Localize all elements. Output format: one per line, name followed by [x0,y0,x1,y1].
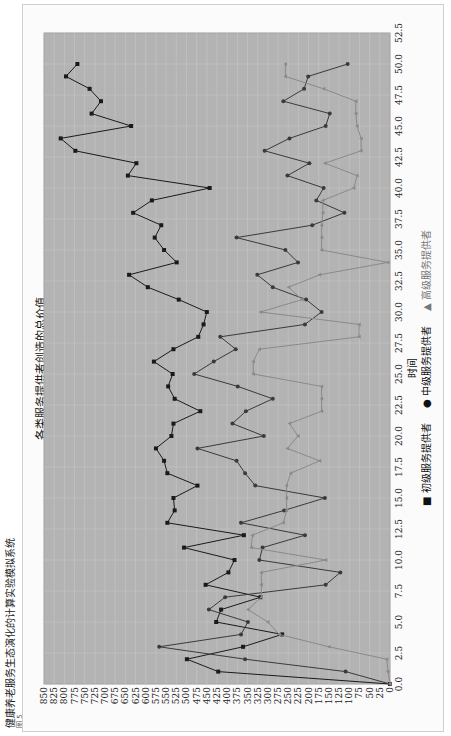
y-tick-label: 250 [283,687,293,704]
triangle-marker-icon: ▲ [421,303,432,311]
circle-marker-icon [262,434,266,438]
y-tick-label: 500 [181,687,191,704]
x-tick-label: 35.0 [394,240,404,260]
square-marker-icon [171,422,175,426]
y-tick-label: 375 [232,687,242,704]
square-marker-icon [173,397,177,401]
circle-marker-icon [281,99,285,103]
x-tick-label: 40.0 [394,178,404,198]
x-tick-label: 32.5 [394,271,404,291]
legend: ■ 初级服务提供者 ● 中级服务提供者 ▲ 高级服务提供者 [418,0,433,736]
y-tick-label: 550 [161,687,171,704]
x-tick-label: 37.5 [394,209,404,229]
y-tick-label: 0 [385,687,395,693]
x-tick-label: 52.5 [394,23,404,43]
x-tick-label: 42.5 [394,147,404,167]
circle-marker-icon [283,248,287,252]
y-tick-label: 25 [375,687,385,699]
y-tick-label: 800 [59,687,69,704]
square-marker-icon [202,322,206,326]
square-marker-icon [152,360,156,364]
circle-marker-icon [236,384,240,388]
x-tick-label: 50.0 [394,54,404,74]
circle-marker-icon [323,496,327,500]
x-tick-label: 47.5 [394,85,404,105]
circle-marker-icon [296,260,300,264]
circle-marker-icon [239,521,243,525]
y-tick-label: 850 [39,687,49,704]
square-marker-icon [129,124,133,128]
square-marker-icon [214,620,218,624]
x-tick-label: 20.0 [394,426,404,446]
square-marker-icon [208,186,212,190]
square-marker-icon [171,496,175,500]
circle-marker-icon [234,347,238,351]
y-tick-label: 325 [253,687,263,704]
circle-marker-icon [223,595,227,599]
circle-marker-icon [192,372,196,376]
x-tick-label: 15.0 [394,488,404,508]
y-tick-label: 450 [202,687,212,704]
square-marker-icon [146,285,150,289]
circle-marker-icon [235,236,239,240]
circle-marker-icon [322,186,326,190]
circle-marker-icon [255,273,259,277]
circle-marker-icon [235,459,239,463]
rotated-chart-stage: 健康养老服务生态演化的计算实验模拟系统 图 5 各类服务提供者创造的总价值 0.… [0,0,451,736]
circle-marker-icon [314,198,318,202]
x-tick-label: 0.0 [394,677,404,692]
circle-marker-icon [243,657,247,661]
square-marker-icon [195,484,199,488]
circle-marker-icon [328,112,332,116]
square-marker-icon [175,260,179,264]
square-marker-icon [126,174,130,178]
circle-marker-icon [244,409,248,413]
square-marker-icon [150,198,154,202]
y-tick-label: 400 [222,687,232,704]
square-marker-icon [153,236,157,240]
circle-marker-icon [306,74,310,78]
square-marker-icon [165,471,169,475]
y-tick-label: 825 [49,687,59,704]
circle-marker-icon [271,285,275,289]
circle-marker-icon [243,471,247,475]
y-tick-label: 125 [334,687,344,704]
y-tick-label: 525 [171,687,181,704]
square-marker-icon [64,74,68,78]
circle-marker-icon [212,360,216,364]
square-marker-icon [198,409,202,413]
circle-marker-icon [246,620,250,624]
circle-marker-icon [303,322,307,326]
circle-marker-icon [320,310,324,314]
x-tick-label: 17.5 [394,457,404,477]
square-marker-icon [162,459,166,463]
y-tick-label: 150 [324,687,334,704]
y-tick-label: 50 [365,687,375,699]
square-marker-icon [173,508,177,512]
circle-marker-icon [287,136,291,140]
circle-marker-icon [324,124,328,128]
circle-marker-icon [271,397,275,401]
circle-marker-icon [307,161,311,165]
x-tick-label: 25.0 [394,364,404,384]
square-marker-icon [159,223,163,227]
square-marker-icon [216,670,220,674]
square-marker-icon [166,384,170,388]
circle-marker-icon [338,570,342,574]
square-marker-icon [75,62,79,66]
legend-item-junior: ■ 初级服务提供者 [421,420,432,506]
x-tick-label: 45.0 [394,116,404,136]
x-tick-label: 27.5 [394,333,404,353]
square-marker-icon [162,248,166,252]
x-axis-label: 时间 [404,0,419,736]
circle-marker-icon [195,446,199,450]
circle-marker-icon [218,335,222,339]
y-tick-label: 625 [131,687,141,704]
square-marker-icon [99,99,103,103]
y-tick-label: 700 [100,687,110,704]
square-marker-icon [233,558,237,562]
square-marker-icon [90,112,94,116]
x-tick-label: 7.5 [394,584,404,599]
square-marker-icon: ■ [421,496,432,505]
y-tick-label: 775 [70,687,80,704]
